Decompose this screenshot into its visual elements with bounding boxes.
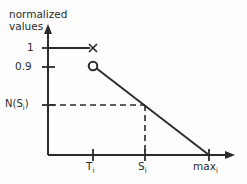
y-tick-label-0-9: 0.9 xyxy=(15,60,32,72)
x-tick-label-si: Si xyxy=(138,160,147,172)
x-tick-label-si-sub: i xyxy=(145,166,147,175)
x-tick-label-maxi-sub: i xyxy=(216,166,218,175)
y-tick-label-1: 1 xyxy=(27,41,34,53)
x-tick-label-maxi-main: max xyxy=(193,160,216,172)
y-tick-label-n-si-sub: i xyxy=(23,104,25,112)
x-axis-arrowhead xyxy=(225,151,235,159)
y-axis-title-line1: normalized xyxy=(9,8,67,20)
x-tick-label-ti: Ti xyxy=(86,160,94,172)
y-axis-title: normalized values xyxy=(9,8,67,32)
x-tick-label-si-main: S xyxy=(138,160,145,172)
y-tick-label-n-si: N(Si) xyxy=(5,98,29,110)
y-tick-label-n-si-suffix: ) xyxy=(25,98,29,109)
series-decay-line xyxy=(96,68,209,155)
cross-marker xyxy=(89,44,97,52)
x-tick-label-maxi: maxi xyxy=(193,160,218,172)
y-axis-title-line2: values xyxy=(9,20,67,32)
chart-figure: normalized values 1 0.9 N(Si) Ti Si maxi xyxy=(0,0,247,184)
open-circle-marker xyxy=(89,62,98,71)
y-tick-label-n-si-prefix: N(S xyxy=(5,98,23,109)
